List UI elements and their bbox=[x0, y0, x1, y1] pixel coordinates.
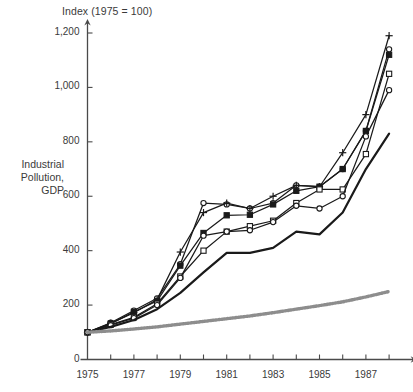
marker-open-circle bbox=[201, 200, 206, 205]
series-path-series-open-square bbox=[88, 74, 390, 332]
marker-open-circle bbox=[271, 219, 276, 224]
marker-cross bbox=[177, 248, 184, 255]
marker-filled-square bbox=[131, 309, 136, 314]
marker-open-circle bbox=[247, 228, 252, 233]
series-series-open-square bbox=[85, 71, 392, 335]
chart-container: Index (1975 = 100) Industrial Pollution,… bbox=[0, 0, 413, 392]
series-path-series-cross bbox=[88, 36, 390, 333]
series-series-filled-square bbox=[85, 52, 392, 335]
marker-cross bbox=[339, 149, 346, 156]
marker-cross bbox=[362, 111, 369, 118]
marker-open-circle bbox=[363, 134, 368, 139]
marker-cross bbox=[246, 205, 253, 212]
series-series-open-circle-lower bbox=[85, 88, 392, 335]
marker-filled-square bbox=[178, 263, 183, 268]
marker-filled-square bbox=[224, 213, 229, 218]
marker-open-circle bbox=[201, 233, 206, 238]
series-group bbox=[84, 32, 393, 336]
marker-filled-square bbox=[340, 166, 345, 171]
marker-open-square bbox=[363, 151, 368, 156]
marker-open-circle bbox=[224, 229, 229, 234]
marker-open-circle bbox=[178, 275, 183, 280]
marker-open-circle bbox=[340, 194, 345, 199]
marker-open-circle bbox=[387, 47, 392, 52]
marker-open-square bbox=[201, 248, 206, 253]
marker-open-square bbox=[387, 71, 392, 76]
marker-open-square bbox=[317, 187, 322, 192]
axes-group bbox=[81, 19, 413, 363]
marker-open-circle bbox=[387, 88, 392, 93]
marker-cross bbox=[270, 193, 277, 200]
plot-area bbox=[0, 0, 413, 392]
marker-open-circle bbox=[294, 203, 299, 208]
marker-filled-square bbox=[271, 202, 276, 207]
marker-filled-square bbox=[387, 52, 392, 57]
marker-open-circle bbox=[317, 206, 322, 211]
marker-filled-square bbox=[294, 188, 299, 193]
marker-cross bbox=[386, 32, 393, 39]
marker-filled-square bbox=[247, 212, 252, 217]
